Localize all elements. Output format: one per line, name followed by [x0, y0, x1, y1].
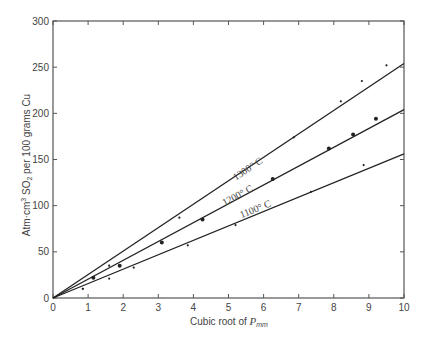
data-point	[363, 164, 365, 166]
data-point	[351, 133, 355, 137]
data-point	[310, 191, 312, 193]
data-point	[361, 80, 363, 82]
x-tick-label: 3	[156, 302, 162, 313]
data-point	[201, 218, 205, 222]
x-tick-label: 1	[85, 302, 91, 313]
data-point	[160, 241, 164, 245]
chart: 012345678910050100150200250300 1300° C12…	[0, 0, 427, 338]
data-point	[91, 276, 95, 280]
y-tick-label: 100	[32, 200, 49, 211]
y-tick-label: 50	[38, 246, 50, 257]
fit-lines	[53, 63, 404, 298]
data-point	[293, 136, 295, 138]
data-point	[82, 288, 84, 290]
data-point	[187, 244, 189, 246]
y-tick-label: 0	[43, 293, 49, 304]
x-tick-label: 9	[366, 302, 372, 313]
data-point	[108, 265, 110, 267]
y-tick-label: 300	[32, 16, 49, 27]
plot-frame	[53, 21, 404, 298]
line-labels: 1300° C1200° C1100° C	[220, 155, 273, 221]
fit-line	[53, 154, 404, 298]
y-tick-label: 250	[32, 62, 49, 73]
x-axis-label: Cubic root of Pmm	[190, 315, 268, 328]
data-point	[118, 264, 122, 268]
y-tick-label: 200	[32, 108, 49, 119]
data-point	[327, 146, 331, 150]
x-tick-label: 6	[261, 302, 267, 313]
fit-line	[53, 63, 404, 298]
y-tick-label: 150	[32, 154, 49, 165]
x-tick-label: 0	[50, 302, 56, 313]
line-label: 1100° C	[238, 197, 273, 220]
data-point	[133, 266, 135, 268]
data-point	[340, 100, 342, 102]
data-point	[271, 177, 275, 181]
x-tick-label: 8	[331, 302, 337, 313]
data-point	[374, 117, 378, 121]
plot-border	[53, 21, 404, 298]
x-tick-label: 7	[296, 302, 302, 313]
y-axis-label: Atm·cm3 SO2 per 100 grams Cu	[20, 94, 33, 236]
axis-ticks: 012345678910050100150200250300	[32, 16, 410, 314]
x-tick-label: 4	[191, 302, 197, 313]
data-point	[234, 224, 236, 226]
x-tick-label: 2	[120, 302, 126, 313]
x-tick-label: 5	[226, 302, 232, 313]
data-point	[108, 278, 110, 280]
x-tick-label: 10	[398, 302, 410, 313]
data-point	[178, 217, 180, 219]
line-label: 1300° C	[231, 155, 265, 183]
data-point	[385, 64, 387, 66]
line-label: 1200° C	[220, 182, 255, 208]
